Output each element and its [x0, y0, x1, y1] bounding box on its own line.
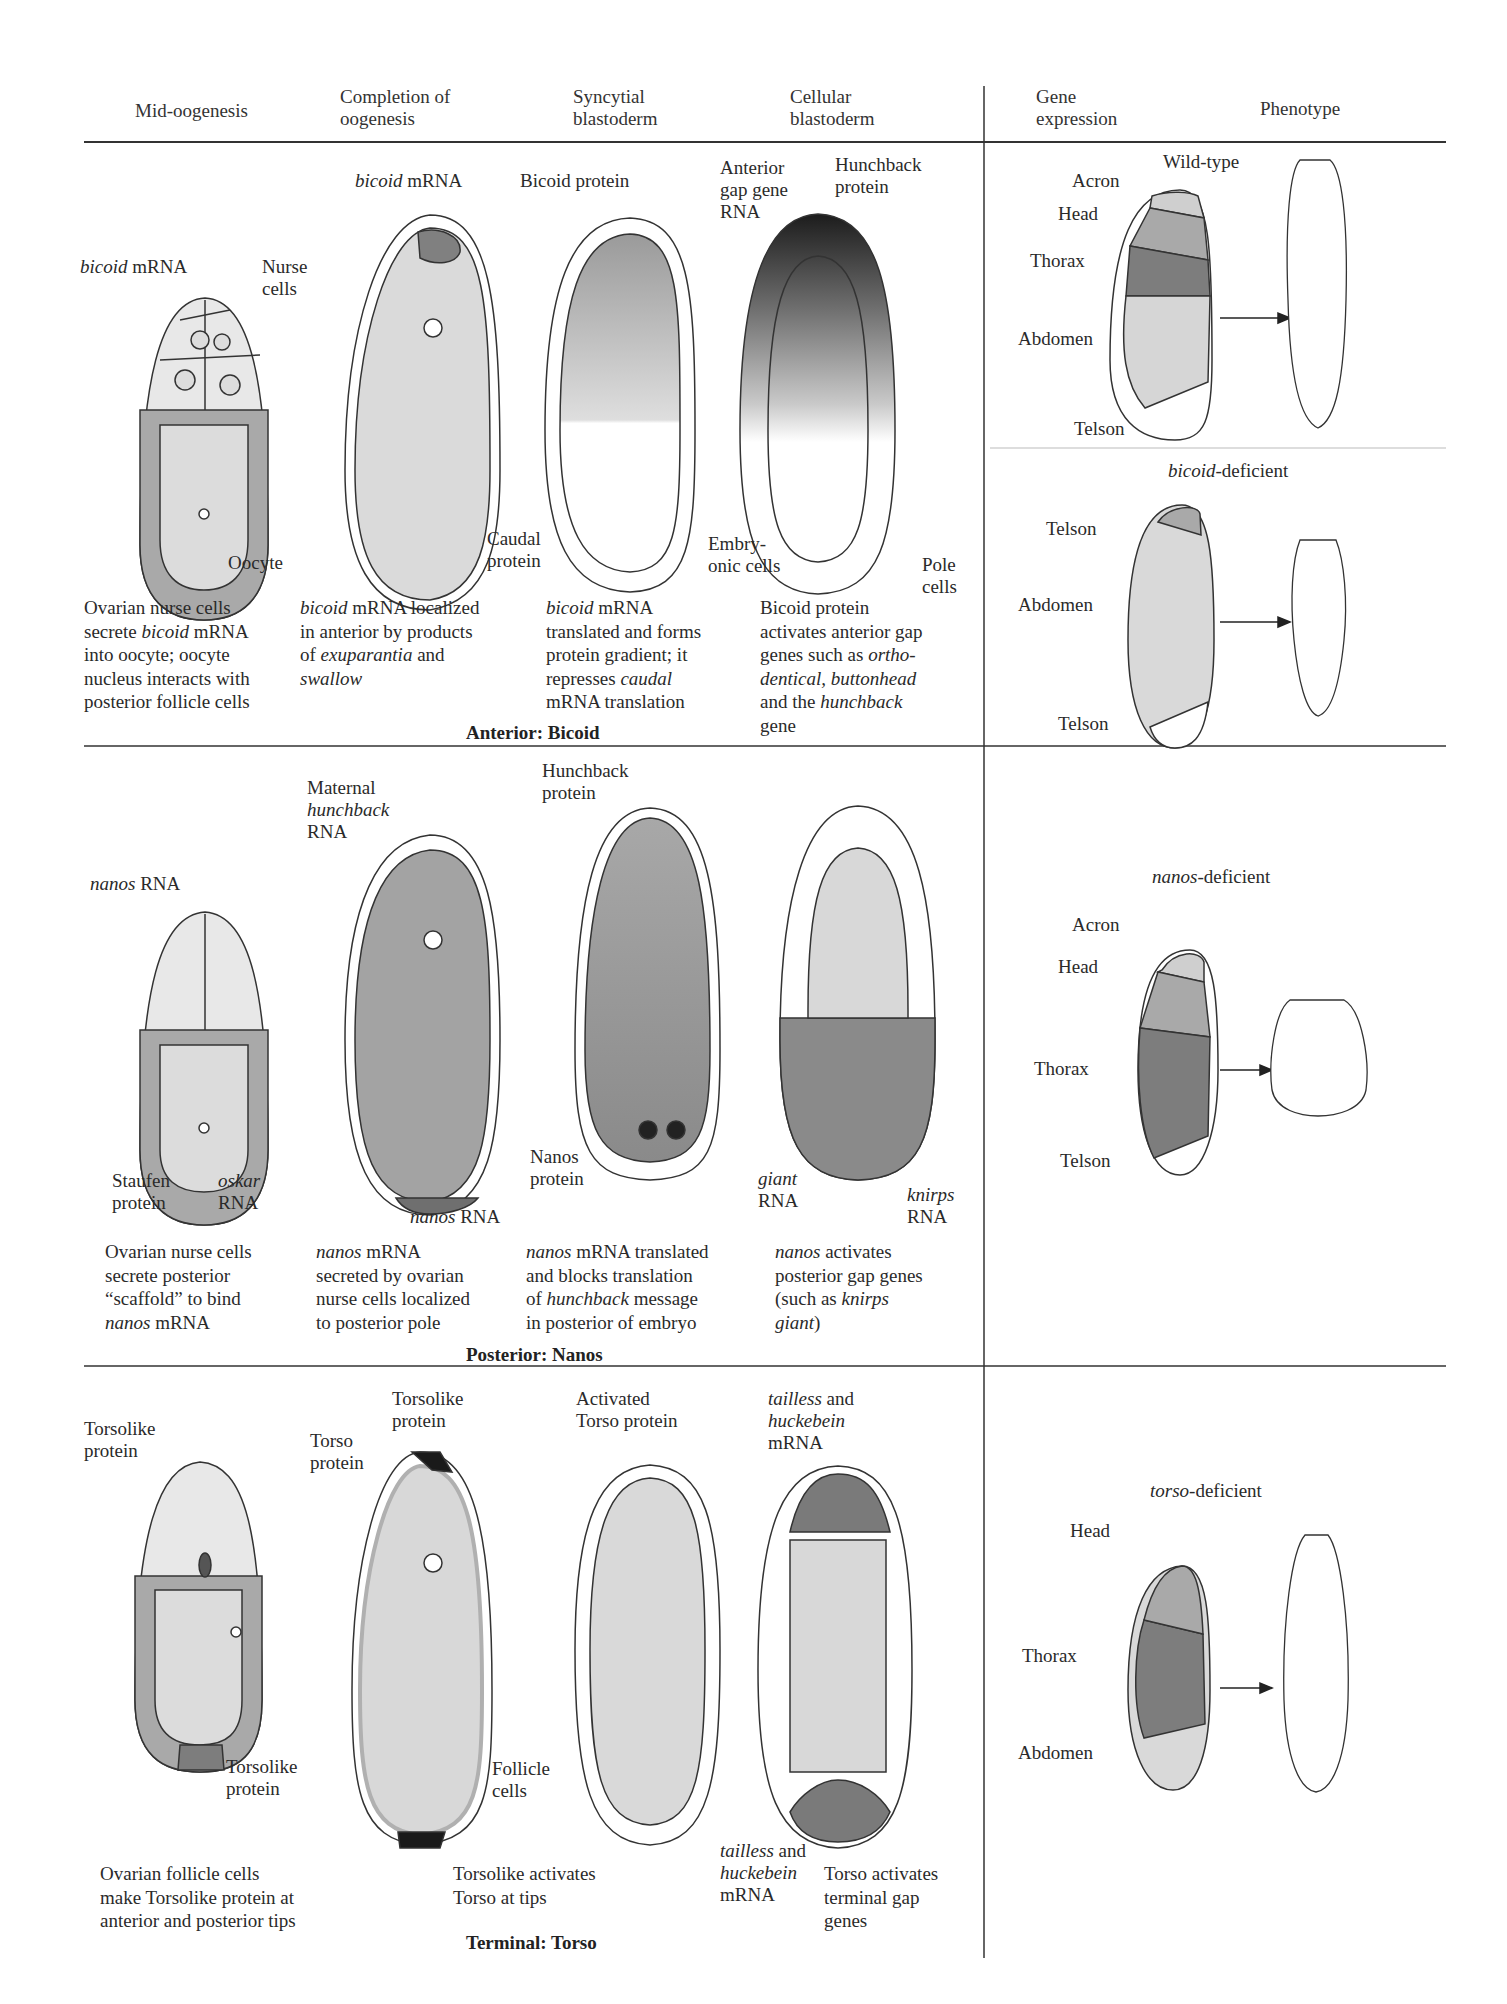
- caption-line: protein gradient; it: [546, 643, 701, 667]
- caption-posterior-mid-oogenesis: Ovarian nurse cellssecrete posterior“sca…: [105, 1240, 252, 1334]
- terminal-oocyte: [352, 1452, 492, 1848]
- label-line: protein: [835, 176, 922, 198]
- nanos-deficient-title: nanos-deficient: [1152, 866, 1270, 888]
- header-syncytial-blastoderm: Syncytial blastoderm: [573, 86, 657, 130]
- label-line: protein: [487, 550, 541, 572]
- caption-line: posterior gap genes: [775, 1264, 923, 1288]
- label-line: onic cells: [708, 555, 780, 577]
- caption-posterior-cellular: nanos activatesposterior gap genes(such …: [775, 1240, 923, 1334]
- caption-line: translated and forms: [546, 620, 701, 644]
- caption-line: dentical, buttonhead: [760, 667, 922, 691]
- label-rest: RNA: [455, 1206, 500, 1227]
- label-line: cells: [492, 1780, 550, 1802]
- label-rest: and: [822, 1388, 854, 1409]
- section-label-terminal: Terminal: Torso: [466, 1932, 597, 1954]
- region-abdomen: Abdomen: [1018, 1742, 1093, 1764]
- label-torso-protein: Torsoprotein: [310, 1430, 364, 1474]
- label-nanos-rna: nanos RNA: [90, 873, 180, 895]
- label-line: Torso protein: [576, 1410, 678, 1432]
- caption-line: to posterior pole: [316, 1311, 470, 1335]
- label-activated-torso-protein: ActivatedTorso protein: [576, 1388, 678, 1432]
- nanos-deficient-gene-expression: [1138, 950, 1218, 1175]
- label-line: mRNA: [720, 1884, 806, 1906]
- label-ital: nanos: [90, 873, 135, 894]
- header-line: Cellular: [790, 86, 874, 108]
- caption-line: secreted by ovarian: [316, 1264, 470, 1288]
- label-line: huckebein: [768, 1410, 854, 1432]
- caption-line: bicoid mRNA: [546, 596, 701, 620]
- region-telson: Telson: [1060, 1150, 1110, 1172]
- label-hunchback-protein: Hunchbackprotein: [835, 154, 922, 198]
- label-ital: tailless: [720, 1840, 774, 1861]
- caption-line: gene: [760, 714, 922, 738]
- caption-line: of exuparantia and: [300, 643, 479, 667]
- header-cellular-blastoderm: Cellular blastoderm: [790, 86, 874, 130]
- label-line: giant: [758, 1168, 798, 1190]
- label-nurse-cells: Nursecells: [262, 256, 307, 300]
- region-head: Head: [1058, 203, 1098, 225]
- label-torsolike-protein-2: Torsolikeprotein: [392, 1388, 464, 1432]
- label-rest: mRNA: [403, 170, 463, 191]
- caption-line: Ovarian nurse cells: [105, 1240, 252, 1264]
- label-oskar-rna: oskarRNA: [218, 1170, 260, 1214]
- title-rest: -deficient: [1216, 460, 1289, 481]
- header-line: blastoderm: [573, 108, 657, 130]
- header-line: Completion of: [340, 86, 450, 108]
- caption-line: nanos mRNA: [316, 1240, 470, 1264]
- header-mid-oogenesis: Mid-oogenesis: [135, 100, 248, 122]
- caption-line: Torso activates: [824, 1862, 938, 1886]
- label-line: Hunchback: [835, 154, 922, 176]
- caption-line: posterior follicle cells: [84, 690, 250, 714]
- label-tailless-huckebein-bottom: tailless andhuckebeinmRNA: [720, 1840, 806, 1906]
- label-line: Nanos: [530, 1146, 584, 1168]
- label-line: protein: [392, 1410, 464, 1432]
- caption-line: and blocks translation: [526, 1264, 709, 1288]
- label-nanos-rna-2: nanos RNA: [410, 1206, 500, 1228]
- region-acron: Acron: [1072, 170, 1119, 192]
- label-line: Follicle: [492, 1758, 550, 1780]
- label-pole-cells: Polecells: [922, 554, 957, 598]
- region-thorax: Thorax: [1030, 250, 1085, 272]
- caption-posterior-syncytial: nanos mRNA translatedand blocks translat…: [526, 1240, 709, 1334]
- caption-line: of hunchback message: [526, 1287, 709, 1311]
- caption-line: activates anterior gap: [760, 620, 922, 644]
- label-line: RNA: [758, 1190, 798, 1212]
- label-line: Torsolike: [84, 1418, 156, 1440]
- caption-line: in anterior by products: [300, 620, 479, 644]
- header-line: Syncytial: [573, 86, 657, 108]
- region-telson: Telson: [1074, 418, 1124, 440]
- caption-line: nurse cells localized: [316, 1287, 470, 1311]
- label-line: RNA: [720, 201, 788, 223]
- label-line: Activated: [576, 1388, 678, 1410]
- bicoid-deficient-title: bicoid-deficient: [1168, 460, 1288, 482]
- caption-line: Torso at tips: [453, 1886, 596, 1910]
- label-line: knirps: [907, 1184, 955, 1206]
- caption-line: nanos activates: [775, 1240, 923, 1264]
- caption-line: mRNA translation: [546, 690, 701, 714]
- title-ital: torso: [1150, 1480, 1189, 1501]
- label-line: RNA: [307, 821, 389, 843]
- terminal-syncytial: [575, 1465, 720, 1845]
- label-line: protein: [226, 1778, 298, 1800]
- header-line: oogenesis: [340, 108, 450, 130]
- label-rest: and: [774, 1840, 806, 1861]
- caption-line: swallow: [300, 667, 479, 691]
- figure-artwork: [0, 0, 1507, 2004]
- caption-line: genes: [824, 1909, 938, 1933]
- caption-terminal-completion: Torsolike activatesTorso at tips: [453, 1862, 596, 1909]
- wildtype-gene-expression: [1110, 190, 1212, 440]
- terminal-cellular: [758, 1466, 912, 1848]
- label-line: Caudal: [487, 528, 541, 550]
- caption-line: genes such as ortho-: [760, 643, 922, 667]
- caption-terminal-mid-oogenesis: Ovarian follicle cellsmake Torsolike pro…: [100, 1862, 296, 1933]
- anterior-syncytial: [545, 218, 695, 592]
- posterior-oocyte: [345, 835, 500, 1215]
- caption-line: nucleus interacts with: [84, 667, 250, 691]
- caption-line: secrete bicoid mRNA: [84, 620, 250, 644]
- caption-line: Ovarian nurse cells: [84, 596, 250, 620]
- caption-posterior-completion: nanos mRNAsecreted by ovariannurse cells…: [316, 1240, 470, 1334]
- caption-line: and the hunchback: [760, 690, 922, 714]
- caption-line: anterior and posterior tips: [100, 1909, 296, 1933]
- caption-line: terminal gap: [824, 1886, 938, 1910]
- caption-anterior-cellular: Bicoid proteinactivates anterior gapgene…: [760, 596, 922, 737]
